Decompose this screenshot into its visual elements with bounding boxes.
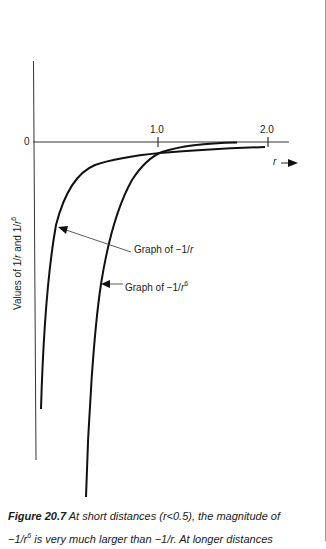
caption-line-2: −1/r6 is very much larger than −1/r. At … [8,526,320,549]
figure-number: Figure 20.7 [8,510,66,522]
y-axis [34,61,37,460]
zero-label: 0 [24,137,30,147]
figure-caption: Figure 20.7 At short distances (r<0.5), … [8,506,320,549]
annotation-inv-r6: Graph of −1/r6 [125,280,188,293]
r-arrow-icon [281,159,298,167]
x-tick-label-1: 1.0 [150,125,164,135]
x-axis-label: r [273,157,276,167]
x-tick-label-2: 2.0 [260,125,274,135]
curve-inv-r6 [86,143,237,498]
annotation-inv-r: Graph of −1/r [134,245,193,255]
curve-inv-r [41,147,265,409]
pointer-inv-r [58,226,131,252]
pointer-inv-r6 [101,280,123,288]
caption-line-1: Figure 20.7 At short distances (r<0.5), … [8,506,320,526]
y-axis-label: Values of 1/r and 1/r6 [10,217,23,310]
